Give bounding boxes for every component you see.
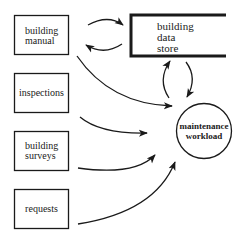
- data-store-label: building data store: [157, 21, 194, 54]
- maintenance-workload-label: maintenance workload: [176, 121, 232, 141]
- building-surveys-label: building surveys: [25, 141, 58, 161]
- arrow-store-to-workload: [186, 62, 192, 97]
- inspections-label: inspections: [14, 88, 69, 98]
- arrow-manual-to-store: [88, 20, 123, 26]
- label-line: maintenance: [176, 121, 232, 131]
- arrow-workload-to-store: [163, 61, 170, 98]
- arrow-manual-to-workload: [77, 56, 172, 106]
- arrow-store-to-manual: [86, 44, 122, 50]
- label-line: workload: [176, 131, 232, 141]
- arrow-surveys-to-workload: [78, 155, 155, 170]
- requests-label: requests: [14, 204, 69, 214]
- building-manual-label: building manual: [25, 26, 58, 46]
- arrow-inspections-to-workload: [80, 117, 147, 133]
- arrow-requests-to-workload: [78, 162, 175, 224]
- label-line: inspections: [14, 88, 69, 98]
- label-line: manual: [25, 36, 58, 46]
- label-line: surveys: [25, 151, 58, 161]
- label-line: requests: [14, 204, 69, 214]
- label-line: store: [157, 43, 194, 54]
